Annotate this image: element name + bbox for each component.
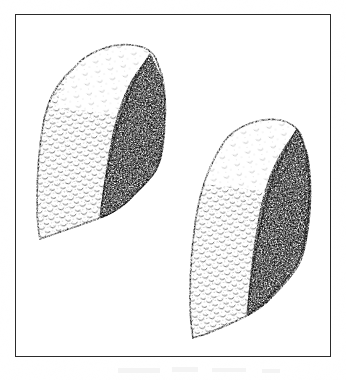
- illustration-plate: [0, 0, 346, 380]
- specimens-drawing: [16, 15, 330, 356]
- figure-area: [16, 15, 330, 356]
- plate-caption: [15, 360, 331, 380]
- plate-frame: [15, 14, 331, 357]
